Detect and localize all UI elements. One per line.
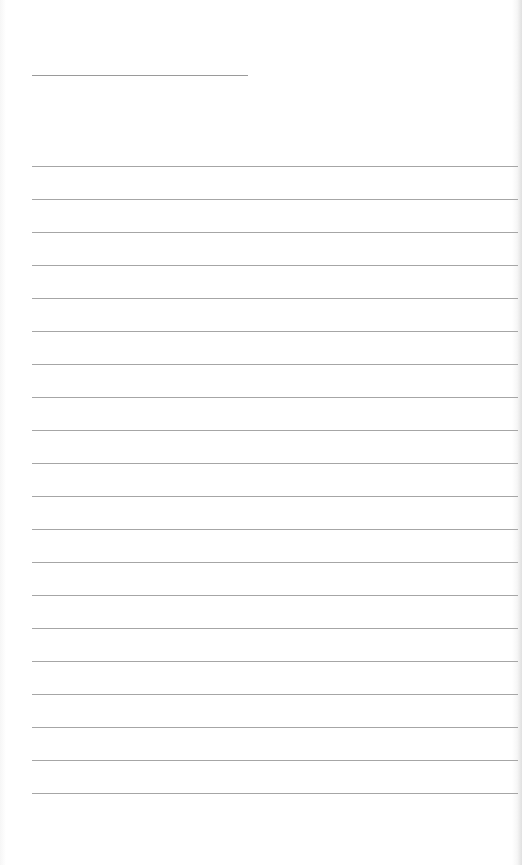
ruled-line bbox=[32, 727, 518, 728]
title-line bbox=[32, 75, 248, 76]
ruled-line bbox=[32, 265, 518, 266]
ruled-line bbox=[32, 397, 518, 398]
ruled-line bbox=[32, 529, 518, 530]
ruled-line bbox=[32, 166, 518, 167]
page-edge-shadow bbox=[517, 0, 522, 865]
ruled-line bbox=[32, 562, 518, 563]
ruled-line bbox=[32, 364, 518, 365]
ruled-line bbox=[32, 760, 518, 761]
ruled-line bbox=[32, 298, 518, 299]
ruled-line bbox=[32, 199, 518, 200]
ruled-line bbox=[32, 232, 518, 233]
ruled-line bbox=[32, 694, 518, 695]
ruled-line bbox=[32, 463, 518, 464]
ruled-line bbox=[32, 595, 518, 596]
lined-paper-sheet bbox=[0, 0, 522, 865]
ruled-line bbox=[32, 496, 518, 497]
ruled-line bbox=[32, 793, 518, 794]
ruled-line bbox=[32, 661, 518, 662]
ruled-line bbox=[32, 430, 518, 431]
ruled-line bbox=[32, 331, 518, 332]
ruled-line bbox=[32, 628, 518, 629]
